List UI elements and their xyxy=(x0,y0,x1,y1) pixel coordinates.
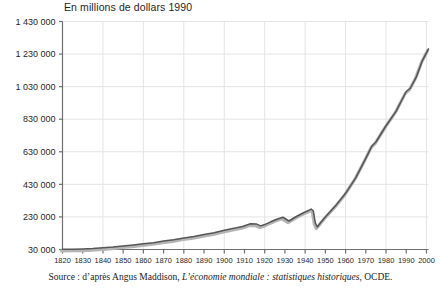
y-axis-ticks: 1 430 0001 230 0001 030 000830 000630 00… xyxy=(15,17,62,255)
svg-text:1990: 1990 xyxy=(398,256,415,265)
svg-text:1970: 1970 xyxy=(357,256,374,265)
chart-plot: 1 430 0001 230 0001 030 000830 000630 00… xyxy=(0,0,441,293)
svg-text:430 000: 430 000 xyxy=(23,180,56,190)
svg-text:1 230 000: 1 230 000 xyxy=(15,49,55,59)
svg-text:830 000: 830 000 xyxy=(23,114,56,124)
svg-text:1900: 1900 xyxy=(216,256,233,265)
svg-text:1850: 1850 xyxy=(115,256,132,265)
svg-text:1880: 1880 xyxy=(175,256,192,265)
svg-text:30 000: 30 000 xyxy=(28,245,56,255)
svg-text:1840: 1840 xyxy=(95,256,112,265)
svg-text:1 430 000: 1 430 000 xyxy=(15,17,55,27)
svg-text:2000: 2000 xyxy=(418,256,435,265)
svg-text:1960: 1960 xyxy=(337,256,354,265)
source-title-italic: L’économie mondiale : statistiques histo… xyxy=(182,272,360,282)
svg-text:230 000: 230 000 xyxy=(23,212,56,222)
source-note: Source : d’après Angus Maddison, L’écono… xyxy=(0,272,441,282)
svg-text:1940: 1940 xyxy=(297,256,314,265)
x-axis-ticks: 1820183018401850186018701880189019001910… xyxy=(54,250,435,266)
svg-text:1890: 1890 xyxy=(196,256,213,265)
svg-text:1930: 1930 xyxy=(277,256,294,265)
source-suffix: , OCDE. xyxy=(360,272,393,282)
svg-text:1 030 000: 1 030 000 xyxy=(15,82,55,92)
source-prefix: Source : d’après Angus Maddison, xyxy=(48,272,182,282)
svg-text:1980: 1980 xyxy=(378,256,395,265)
svg-text:1820: 1820 xyxy=(54,256,71,265)
svg-text:1860: 1860 xyxy=(135,256,152,265)
svg-text:1830: 1830 xyxy=(74,256,91,265)
data-series xyxy=(62,49,429,251)
svg-text:1910: 1910 xyxy=(236,256,253,265)
svg-text:1950: 1950 xyxy=(317,256,334,265)
axis-lines xyxy=(63,22,429,250)
svg-text:1870: 1870 xyxy=(155,256,172,265)
chart-container: En millions de dollars 1990 1 430 0001 2… xyxy=(0,0,441,293)
svg-text:1920: 1920 xyxy=(256,256,273,265)
svg-text:630 000: 630 000 xyxy=(23,147,56,157)
gridlines xyxy=(63,22,429,250)
